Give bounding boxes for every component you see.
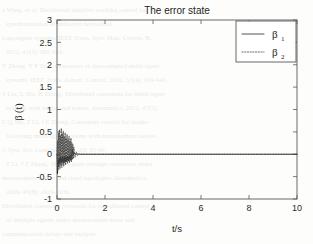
x-tick-label: 6 [198, 203, 203, 213]
x-tick-label: 8 [246, 203, 251, 213]
y-tick-label: -0.5 [36, 172, 52, 182]
chart-svg: 0246810 -1-0.500.511.522.53 t/s β (t) Th… [0, 0, 313, 244]
y-axis-label: β (t) [13, 103, 25, 120]
figure-panel: a Wang, et al. Distributed adaptive trac… [0, 0, 313, 244]
chart-plot-area: 0246810 -1-0.500.511.522.53 t/s β (t) Th… [0, 0, 313, 244]
x-axis-label: t/s [172, 223, 182, 234]
series-beta1-line [57, 150, 297, 174]
y-tick-label: 0 [47, 149, 52, 159]
y-tick-label: 2.5 [39, 38, 52, 48]
y-tick-label: 0.5 [39, 127, 52, 137]
y-tick-label: 2 [47, 60, 52, 70]
y-tick-label: 1 [47, 105, 52, 115]
y-tick-label: 3 [47, 15, 52, 25]
y-tick-label: -1 [44, 194, 52, 204]
legend-sub-beta2: 2 [281, 53, 285, 61]
series-beta2-line [57, 128, 297, 170]
x-tick-label: 2 [102, 203, 107, 213]
x-tick-label: 4 [150, 203, 155, 213]
chart-title: The error state [144, 5, 210, 16]
legend-box [236, 21, 296, 62]
legend-label-beta1: β [272, 28, 278, 40]
legend[interactable]: β 1 β 2 [236, 21, 296, 62]
x-tick-label: 0 [54, 203, 59, 213]
x-tick-label: 10 [292, 203, 302, 213]
legend-sub-beta1: 1 [281, 35, 285, 43]
y-tick-label: 1.5 [39, 82, 52, 92]
legend-label-beta2: β [272, 46, 278, 58]
